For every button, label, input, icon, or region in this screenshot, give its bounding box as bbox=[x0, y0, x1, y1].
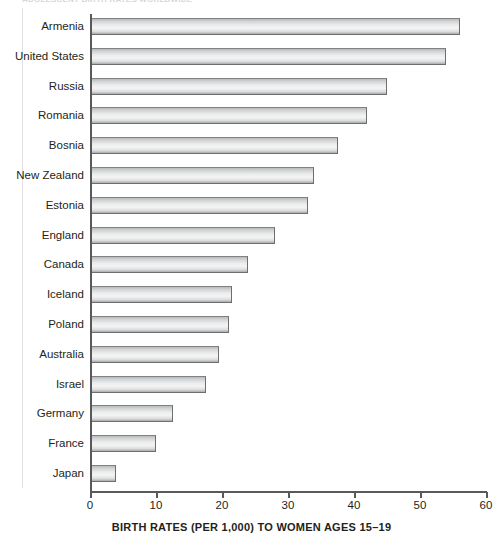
x-tick bbox=[222, 492, 224, 498]
bar-romania bbox=[90, 107, 367, 124]
x-tick bbox=[90, 492, 92, 498]
category-label-united-states: United States bbox=[2, 48, 84, 65]
bar-england bbox=[90, 227, 275, 244]
category-label-armenia: Armenia bbox=[2, 18, 84, 35]
bar-canada bbox=[90, 256, 248, 273]
bar-bosnia bbox=[90, 137, 338, 154]
x-tick-label: 30 bbox=[282, 499, 295, 512]
bar-japan bbox=[90, 465, 116, 482]
category-label-bosnia: Bosnia bbox=[2, 137, 84, 154]
x-tick-label: 0 bbox=[87, 499, 93, 512]
category-label-new-zealand: New Zealand bbox=[2, 167, 84, 184]
x-tick-label: 60 bbox=[480, 499, 493, 512]
category-label-estonia: Estonia bbox=[2, 197, 84, 214]
category-label-france: France bbox=[2, 435, 84, 452]
x-tick-label: 10 bbox=[150, 499, 163, 512]
bar-israel bbox=[90, 376, 206, 393]
category-label-iceland: Iceland bbox=[2, 286, 84, 303]
category-label-germany: Germany bbox=[2, 405, 84, 422]
bar-australia bbox=[90, 346, 219, 363]
bar-russia bbox=[90, 78, 387, 95]
category-label-england: England bbox=[2, 227, 84, 244]
x-tick-label: 50 bbox=[414, 499, 427, 512]
x-tick-label: 40 bbox=[348, 499, 361, 512]
bar-france bbox=[90, 435, 156, 452]
top-caption-cutoff: ADOLESCENT BIRTH RATES WORLDWIDE bbox=[22, 0, 192, 3]
y-axis-line bbox=[90, 14, 92, 491]
x-axis-title: BIRTH RATES (PER 1,000) TO WOMEN AGES 15… bbox=[0, 521, 503, 533]
category-label-israel: Israel bbox=[2, 376, 84, 393]
x-tick bbox=[156, 492, 158, 498]
bar-estonia bbox=[90, 197, 308, 214]
category-label-japan: Japan bbox=[2, 465, 84, 482]
bar-chart-figure: ADOLESCENT BIRTH RATES WORLDWIDE Armenia… bbox=[0, 0, 503, 558]
category-label-australia: Australia bbox=[2, 346, 84, 363]
x-tick-label: 20 bbox=[216, 499, 229, 512]
category-label-romania: Romania bbox=[2, 107, 84, 124]
bar-iceland bbox=[90, 286, 232, 303]
bar-germany bbox=[90, 405, 173, 422]
x-tick bbox=[420, 492, 422, 498]
x-tick bbox=[486, 492, 488, 498]
x-tick bbox=[288, 492, 290, 498]
bar-poland bbox=[90, 316, 229, 333]
category-label-russia: Russia bbox=[2, 78, 84, 95]
category-label-canada: Canada bbox=[2, 256, 84, 273]
category-label-poland: Poland bbox=[2, 316, 84, 333]
plot-area: ArmeniaUnited StatesRussiaRomaniaBosniaN… bbox=[90, 14, 486, 490]
x-tick bbox=[354, 492, 356, 498]
bar-armenia bbox=[90, 18, 460, 35]
bar-united-states bbox=[90, 48, 446, 65]
bar-new-zealand bbox=[90, 167, 314, 184]
